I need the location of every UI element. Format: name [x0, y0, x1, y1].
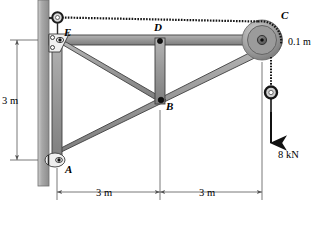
- label-joint-C: C: [281, 9, 289, 21]
- truss-diagram: E D C B A 0.1 m 8 kN 3 m 3 m 3 m: [0, 0, 327, 225]
- load-link-ring: [265, 87, 277, 99]
- label-pulley-radius: 0.1 m: [288, 36, 311, 47]
- label-dim-span-right: 3 m: [199, 187, 215, 198]
- eyebolt-E: [49, 12, 63, 34]
- joint-A: [45, 153, 65, 167]
- pin-B: [158, 97, 164, 103]
- pin-D: [157, 38, 162, 43]
- member-column-E-A: [52, 37, 62, 163]
- joint-D: [157, 38, 162, 43]
- figure-canvas: E D C B A 0.1 m 8 kN 3 m 3 m 3 m: [0, 0, 327, 225]
- joint-B: [158, 97, 164, 103]
- label-joint-B: B: [165, 100, 173, 112]
- pulley-C: [242, 20, 283, 60]
- label-load: 8 kN: [278, 149, 299, 160]
- member-diagonal-E-B: [58, 42, 166, 101]
- label-dim-span-left: 3 m: [96, 187, 112, 198]
- truss-members: [49, 35, 267, 163]
- label-joint-A: A: [64, 163, 72, 175]
- label-joint-E: E: [63, 26, 71, 38]
- member-vertical-D-B: [155, 38, 165, 104]
- label-joint-D: D: [153, 21, 162, 33]
